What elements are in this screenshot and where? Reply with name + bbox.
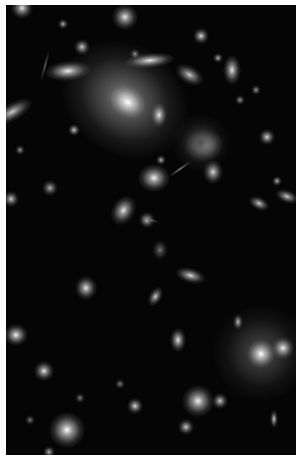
galaxy: [49, 412, 84, 447]
galaxy: [251, 85, 261, 95]
galaxy: [115, 379, 125, 389]
galaxy: [178, 419, 194, 435]
galaxy: [213, 53, 223, 63]
galaxy: [6, 93, 36, 132]
galaxy: [223, 55, 241, 84]
galaxy: [130, 49, 140, 59]
galaxy: [272, 176, 282, 186]
galaxy: [156, 155, 166, 165]
galaxy: [75, 276, 97, 301]
galaxy: [6, 324, 28, 346]
galaxy: [246, 192, 272, 213]
galaxy: [58, 19, 68, 29]
galaxy: [68, 124, 81, 137]
galaxy: [170, 328, 185, 353]
galaxy: [15, 145, 25, 155]
galaxy: [106, 191, 141, 229]
galaxy: [43, 446, 56, 455]
galaxy: [182, 385, 214, 417]
galaxy: [75, 393, 85, 403]
galaxy: [203, 160, 222, 183]
galaxy: [34, 361, 53, 380]
galaxy: [138, 164, 170, 193]
galaxy: [42, 180, 58, 196]
galaxy: [152, 240, 168, 261]
galaxy: [173, 265, 207, 288]
galaxy: [6, 191, 19, 207]
galaxy: [11, 5, 33, 19]
galaxy: [270, 410, 279, 428]
galaxy: [112, 5, 138, 30]
galaxy: [235, 95, 245, 105]
galaxy: [247, 340, 276, 369]
galaxy: [193, 28, 209, 44]
galaxy: [144, 284, 165, 308]
galaxy: [127, 398, 143, 414]
galaxy: [172, 114, 230, 172]
galaxy-cluster-image: [6, 5, 296, 455]
galaxy: [259, 129, 275, 145]
galaxy: [25, 415, 35, 425]
galaxy: [274, 186, 296, 206]
galaxy: [212, 393, 228, 409]
